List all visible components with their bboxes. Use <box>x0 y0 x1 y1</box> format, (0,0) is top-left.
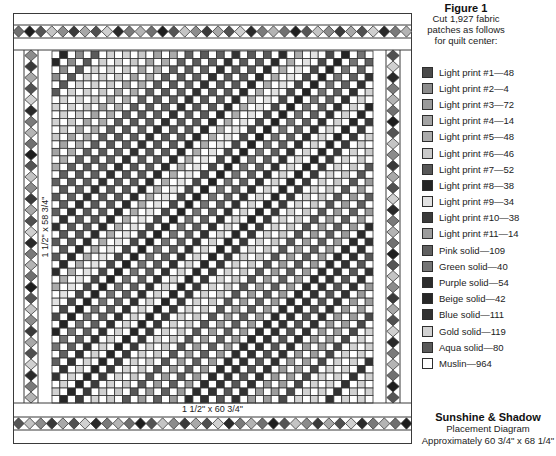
quilt-patch <box>193 156 201 163</box>
quilt-patch <box>295 156 303 163</box>
quilt-patch <box>75 298 83 305</box>
quilt-patch <box>232 81 240 88</box>
quilt-patch <box>209 373 217 380</box>
quilt-patch <box>146 268 154 275</box>
quilt-patch <box>177 58 185 65</box>
quilt-patch <box>138 201 146 208</box>
quilt-patch <box>295 298 303 305</box>
quilt-patch <box>326 201 334 208</box>
quilt-patch <box>122 96 130 103</box>
quilt-patch <box>146 58 154 65</box>
quilt-patch <box>193 283 201 290</box>
fabric-swatch <box>422 342 433 353</box>
quilt-patch <box>318 246 326 253</box>
quilt-patch <box>279 216 287 223</box>
quilt-patch <box>334 163 342 170</box>
quilt-patch <box>154 366 162 373</box>
quilt-patch <box>68 321 76 328</box>
quilt-patch <box>209 201 217 208</box>
quilt-patch <box>216 366 224 373</box>
quilt-patch <box>201 336 209 343</box>
quilt-patch <box>107 358 115 365</box>
quilt-patch <box>154 321 162 328</box>
quilt-patch <box>224 276 232 283</box>
quilt-patch <box>154 193 162 200</box>
quilt-patch <box>365 253 373 260</box>
quilt-patch <box>350 238 358 245</box>
quilt-patch <box>334 381 342 388</box>
quilt-patch <box>232 96 240 103</box>
patch-count: 111 <box>490 309 504 320</box>
quilt-patch <box>169 178 177 185</box>
quilt-patch <box>60 223 68 230</box>
quilt-patch <box>169 171 177 178</box>
quilt-patch <box>115 216 123 223</box>
quilt-patch <box>115 388 123 395</box>
quilt-patch <box>107 133 115 140</box>
quilt-patch <box>52 343 60 350</box>
quilt-patch <box>318 58 326 65</box>
quilt-patch <box>68 253 76 260</box>
quilt-patch <box>107 118 115 125</box>
quilt-patch <box>216 103 224 110</box>
quilt-patch <box>256 231 264 238</box>
quilt-patch <box>193 358 201 365</box>
quilt-patch <box>107 193 115 200</box>
quilt-patch <box>334 208 342 215</box>
quilt-patch <box>342 171 350 178</box>
quilt-patch <box>154 343 162 350</box>
quilt-patch <box>248 261 256 268</box>
quilt-patch <box>287 208 295 215</box>
quilt-patch <box>138 253 146 260</box>
quilt-patch <box>130 126 138 133</box>
quilt-patch <box>342 58 350 65</box>
quilt-patch <box>232 223 240 230</box>
quilt-patch <box>122 156 130 163</box>
quilt-patch <box>216 343 224 350</box>
quilt-patch <box>138 103 146 110</box>
legend-label: Light print #7—52 <box>439 164 514 175</box>
quilt-patch <box>185 373 193 380</box>
quilt-patch <box>99 246 107 253</box>
quilt-patch <box>240 201 248 208</box>
quilt-patch <box>342 351 350 358</box>
fabric-swatch <box>422 326 433 337</box>
quilt-patch <box>201 193 209 200</box>
quilt-patch <box>107 381 115 388</box>
quilt-patch <box>334 313 342 320</box>
quilt-patch <box>138 81 146 88</box>
quilt-patch <box>365 208 373 215</box>
quilt-patch <box>365 261 373 268</box>
quilt-patch <box>287 216 295 223</box>
quilt-patch <box>201 381 209 388</box>
quilt-patch <box>263 58 271 65</box>
quilt-patch <box>350 261 358 268</box>
quilt-patch <box>99 156 107 163</box>
quilt-patch <box>326 178 334 185</box>
quilt-patch <box>232 351 240 358</box>
quilt-patch <box>279 186 287 193</box>
quilt-patch <box>350 111 358 118</box>
quilt-patch <box>303 201 311 208</box>
quilt-patch <box>263 253 271 260</box>
quilt-patch <box>154 238 162 245</box>
quilt-patch <box>318 388 326 395</box>
quilt-patch <box>295 171 303 178</box>
quilt-patch <box>357 186 365 193</box>
quilt-patch <box>295 141 303 148</box>
quilt-patch <box>91 238 99 245</box>
quilt-patch <box>52 73 60 80</box>
quilt-patch <box>122 201 130 208</box>
quilt-patch <box>68 163 76 170</box>
quilt-patch <box>342 201 350 208</box>
quilt-patch <box>138 148 146 155</box>
quilt-patch <box>287 298 295 305</box>
quilt-patch <box>303 193 311 200</box>
quilt-patch <box>334 238 342 245</box>
quilt-patch <box>169 73 177 80</box>
quilt-patch <box>185 103 193 110</box>
quilt-patch <box>256 141 264 148</box>
quilt-patch <box>193 366 201 373</box>
quilt-patch <box>342 388 350 395</box>
quilt-patch <box>177 291 185 298</box>
